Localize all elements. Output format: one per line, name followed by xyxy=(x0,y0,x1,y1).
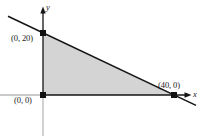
graph-figure: (0, 20) (0, 0) (40, 0) y x xyxy=(0,0,204,138)
point-label-0-0: (0, 0) xyxy=(14,96,32,105)
y-axis-arrow-icon xyxy=(40,7,45,14)
point-marker-40-0 xyxy=(171,92,177,98)
x-axis-label: x xyxy=(193,90,197,99)
y-axis-label: y xyxy=(46,3,50,12)
x-axis-arrow-icon xyxy=(185,92,192,97)
point-label-40-0: (40, 0) xyxy=(158,81,180,90)
point-marker-0-0 xyxy=(40,92,46,98)
point-label-0-20: (0, 20) xyxy=(11,34,33,43)
graph-canvas xyxy=(0,0,204,138)
point-marker-0-20 xyxy=(40,30,46,36)
